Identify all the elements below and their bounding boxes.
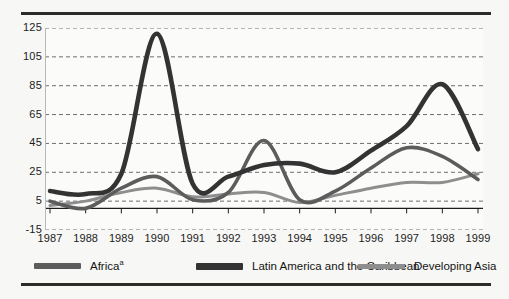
legend-item[interactable]: Developing Asia [358, 258, 496, 274]
legend-swatch-icon [358, 264, 405, 269]
x-tick-label: 1989 [109, 232, 134, 244]
x-tick-label: 1992 [216, 232, 241, 244]
y-tick-label: 5 [36, 195, 42, 206]
legend-footnote-marker: a [119, 258, 123, 267]
x-tick-label: 1988 [73, 232, 98, 244]
y-tick-label: 85 [29, 80, 42, 91]
x-tick-label: 1991 [180, 232, 205, 244]
y-tick-label: 25 [29, 166, 42, 177]
plot-background [45, 28, 483, 230]
bottom-rule [21, 283, 491, 286]
line-chart [45, 28, 483, 230]
chart-legend: AfricaaLatin America and the CaribbeanDe… [28, 258, 486, 274]
x-tick-label: 1995 [323, 232, 348, 244]
x-tick-label: 1987 [38, 232, 63, 244]
x-tick-label: 1996 [359, 232, 384, 244]
x-tick-label: 1997 [394, 232, 419, 244]
x-tick-label: 1999 [466, 232, 491, 244]
plot-area [45, 28, 483, 230]
y-axis: 125105856545255-15 [0, 0, 42, 299]
y-tick-label: 65 [29, 109, 42, 120]
legend-swatch-icon [196, 263, 243, 270]
chart-figure: 125105856545255-15 198719881989199019911… [0, 0, 509, 299]
y-tick-label: 45 [29, 137, 42, 148]
y-tick-label: 125 [23, 22, 42, 33]
x-tick-label: 1990 [145, 232, 170, 244]
x-tick-label: 1998 [430, 232, 455, 244]
x-axis: 1987198819891990199119921993199419951996… [45, 232, 483, 248]
legend-label: Africaa [90, 260, 124, 273]
top-rule [21, 12, 491, 15]
legend-item[interactable]: Africaa [34, 258, 124, 274]
legend-label: Developing Asia [414, 260, 496, 273]
legend-swatch-icon [34, 263, 81, 269]
x-tick-label: 1993 [252, 232, 277, 244]
y-tick-label: 105 [23, 51, 42, 62]
x-tick-label: 1994 [287, 232, 312, 244]
